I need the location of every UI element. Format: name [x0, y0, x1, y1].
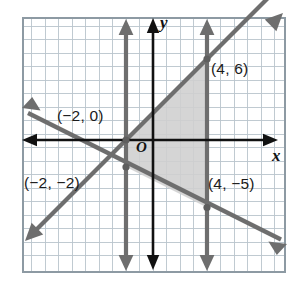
point-label-neg2-neg2: (−2, −2) — [24, 174, 80, 192]
coordinate-graph-figure: (4, 6) (−2, 0) (−2, −2) (4, −5) x y O — [0, 0, 299, 288]
graph-canvas — [0, 0, 299, 288]
x-axis-label: x — [272, 146, 281, 166]
y-axis-label: y — [160, 13, 168, 33]
vertex-neg2-neg2 — [122, 163, 129, 170]
point-label-4-6: (4, 6) — [211, 60, 248, 78]
vertex-4-6 — [203, 55, 210, 62]
point-label-4-neg5: (4, −5) — [208, 175, 255, 193]
vertex-neg2-0 — [122, 136, 129, 143]
vertex-4-neg5 — [203, 204, 210, 211]
point-label-neg2-0: (−2, 0) — [57, 107, 104, 125]
origin-label: O — [136, 139, 147, 156]
